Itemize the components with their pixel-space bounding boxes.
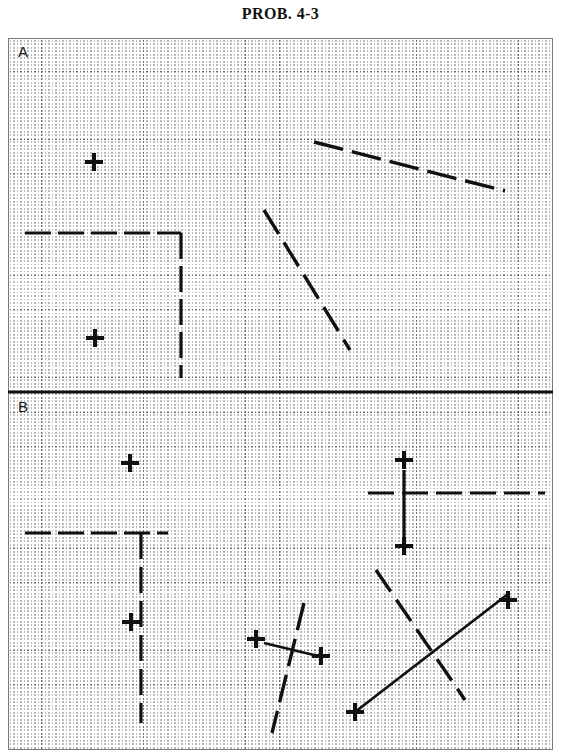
cross-b-7 [346, 703, 364, 721]
line-b-dashed-down-right [376, 570, 465, 700]
cross-b-1 [121, 454, 139, 472]
grid-fine-lines [8, 38, 553, 750]
panel-label-b: B [18, 398, 29, 415]
graph-sheet: A B [8, 38, 553, 750]
cross-b-8 [499, 591, 517, 609]
page-root: PROB. 4-3 A B [0, 0, 561, 755]
drawing-overlay [8, 38, 553, 750]
grid-border [8, 38, 553, 750]
cross-b-4 [395, 537, 413, 555]
cross-a-2 [86, 329, 104, 347]
cross-b-2 [122, 613, 140, 631]
line-b-solid-up-right [355, 594, 508, 712]
line-b-short-horizontal [264, 643, 318, 656]
cross-b-6 [312, 647, 330, 665]
page-title: PROB. 4-3 [0, 5, 561, 23]
grid-dot-mask [8, 38, 553, 750]
line-a-shallow-diagonal [314, 142, 505, 191]
panel-label-a: A [18, 43, 29, 60]
cross-b-3 [395, 451, 413, 469]
grid-coarse-lines [8, 38, 553, 750]
line-a-steep-diagonal [264, 210, 350, 350]
cross-b-5 [247, 630, 265, 648]
cross-a-1 [85, 153, 103, 171]
line-b-steep-mid [272, 603, 304, 733]
